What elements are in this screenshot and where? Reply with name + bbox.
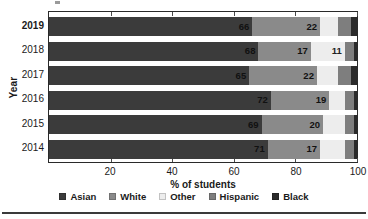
bar-segment-hispanic <box>345 42 354 61</box>
scan-artifact-speck <box>55 1 60 4</box>
bar-segment-white: 22 <box>249 66 317 85</box>
x-axis-tick-top <box>111 12 112 16</box>
y-axis-tick-label-2017: 2017 <box>0 70 44 80</box>
bar-segment-other: 11 <box>311 42 345 61</box>
bar-row: 7117 <box>49 140 357 159</box>
legend-label: Black <box>283 192 308 202</box>
bar-segment-black <box>351 66 357 85</box>
x-axis-tick-bottom <box>295 158 296 162</box>
bar-segment-other <box>329 91 344 110</box>
legend-label: White <box>120 192 146 202</box>
y-axis-tick-label-2019: 2019 <box>0 21 44 31</box>
x-axis-tick-bottom <box>172 158 173 162</box>
bar-segment-other <box>317 66 339 85</box>
bar-segment-hispanic <box>345 115 354 134</box>
legend-label: Asian <box>70 192 96 202</box>
legend-label: Hispanic <box>220 192 260 202</box>
bar-row: 681711 <box>49 42 357 61</box>
x-axis-tick-top <box>234 12 235 16</box>
x-axis-tick-top <box>172 12 173 16</box>
bar-segment-asian: 72 <box>49 91 271 110</box>
x-axis-tick-bottom <box>357 158 358 162</box>
legend-item-black[interactable]: Black <box>272 192 308 202</box>
bar-segment-white: 17 <box>258 42 310 61</box>
bar-segment-black <box>354 42 357 61</box>
bar-segment-white: 17 <box>268 140 320 159</box>
x-axis-tick-label-60: 60 <box>214 166 254 177</box>
y-axis-tick-label-2014: 2014 <box>0 143 44 153</box>
x-axis-tick-bottom <box>234 158 235 162</box>
bar-segment-asian: 65 <box>49 66 249 85</box>
bar-segment-black <box>354 140 357 159</box>
bar-segment-value-label: 68 <box>245 47 256 57</box>
bar-segment-hispanic <box>345 140 354 159</box>
bar-segment-value-label: 72 <box>257 95 268 105</box>
legend-swatch-icon <box>209 193 216 200</box>
bar-segment-value-label: 17 <box>306 144 317 154</box>
y-axis-tick-label-2018: 2018 <box>0 45 44 55</box>
bar-segment-asian: 69 <box>49 115 262 134</box>
bar-segment-other <box>320 17 338 36</box>
y-axis-tick-label-2016: 2016 <box>0 94 44 104</box>
bar-segment-hispanic <box>338 17 350 36</box>
bar-segment-asian: 68 <box>49 42 258 61</box>
x-axis-tick-top <box>357 12 358 16</box>
bar-segment-value-label: 66 <box>239 22 250 32</box>
bar-segment-other <box>323 115 345 134</box>
x-axis-tick-label-80: 80 <box>276 166 316 177</box>
x-axis-title: % of students <box>48 179 358 190</box>
bar-segment-value-label: 20 <box>310 120 321 130</box>
x-axis-tick-label-100: 100 <box>338 166 368 177</box>
x-axis-tick-top <box>295 12 296 16</box>
legend-label: Other <box>170 192 195 202</box>
bar-segment-hispanic <box>345 91 354 110</box>
bar-segment-value-label: 22 <box>303 71 314 81</box>
plot-area: 66226817116522721969207117 <box>48 11 358 163</box>
legend-swatch-icon <box>109 193 116 200</box>
legend-item-hispanic[interactable]: Hispanic <box>209 192 260 202</box>
bar-segment-value-label: 22 <box>306 22 317 32</box>
y-axis-title: Year <box>8 58 19 118</box>
bar-segment-value-label: 69 <box>248 120 259 130</box>
bar-row: 6622 <box>49 17 357 36</box>
y-axis-tick-label-2015: 2015 <box>0 119 44 129</box>
legend-item-white[interactable]: White <box>109 192 146 202</box>
bar-segment-asian: 71 <box>49 140 268 159</box>
chart-legend: AsianWhiteOtherHispanicBlack <box>0 192 368 202</box>
bar-segment-asian: 66 <box>49 17 252 36</box>
legend-item-other[interactable]: Other <box>159 192 195 202</box>
x-axis-tick-label-40: 40 <box>152 166 192 177</box>
bar-segment-white: 22 <box>252 17 320 36</box>
legend-item-asian[interactable]: Asian <box>59 192 96 202</box>
stacked-bar-chart-figure: Year 66226817116522721969207117 20192018… <box>0 0 368 219</box>
bar-segment-white: 19 <box>271 91 330 110</box>
legend-swatch-icon <box>59 193 66 200</box>
bar-segment-value-label: 17 <box>297 47 308 57</box>
bar-segment-value-label: 65 <box>236 71 247 81</box>
bar-segment-black <box>354 91 357 110</box>
bar-segment-value-label: 19 <box>316 95 327 105</box>
bar-segment-white: 20 <box>262 115 324 134</box>
bar-row: 6920 <box>49 115 357 134</box>
bar-segment-other <box>320 140 345 159</box>
legend-swatch-icon <box>159 193 166 200</box>
bar-segment-hispanic <box>338 66 350 85</box>
bar-row: 6522 <box>49 66 357 85</box>
legend-swatch-icon <box>272 193 279 200</box>
bar-segment-black <box>351 17 357 36</box>
x-axis-tick-label-20: 20 <box>90 166 130 177</box>
x-axis-tick-bottom <box>111 158 112 162</box>
bar-segment-black <box>354 115 357 134</box>
bar-row: 7219 <box>49 91 357 110</box>
bottom-divider-rule <box>2 212 366 214</box>
bar-segment-value-label: 71 <box>254 144 265 154</box>
bar-segment-value-label: 11 <box>332 47 342 57</box>
